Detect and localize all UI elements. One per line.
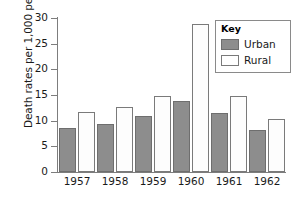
legend-label-urban: Urban	[244, 39, 276, 50]
y-axis-tick	[51, 44, 58, 45]
bar-urban-1957[interactable]	[59, 128, 76, 172]
y-axis-tick-label: 15	[0, 89, 48, 100]
legend-title: Key	[221, 24, 285, 35]
legend-swatch-rural	[221, 55, 239, 66]
y-axis-tick	[51, 18, 58, 19]
bar-rural-1958[interactable]	[116, 107, 133, 172]
x-axis-tick-label: 1961	[210, 176, 248, 187]
bar-rural-1957[interactable]	[78, 112, 95, 172]
x-axis-tick-label: 1960	[172, 176, 210, 187]
bar-rural-1959[interactable]	[154, 96, 171, 172]
bar-rural-1961[interactable]	[230, 96, 247, 172]
y-axis-tick	[51, 121, 58, 122]
y-axis-tick-label: 10	[0, 115, 48, 126]
y-axis-tick	[51, 95, 58, 96]
y-axis-tick-label: 20	[0, 63, 48, 74]
bar-urban-1959[interactable]	[135, 116, 152, 172]
y-axis-tick	[51, 146, 58, 147]
legend: Key Urban Rural	[215, 20, 291, 73]
x-axis-tick-label: 1962	[248, 176, 286, 187]
legend-item-urban[interactable]: Urban	[221, 37, 285, 52]
bar-urban-1958[interactable]	[97, 124, 114, 172]
legend-label-rural: Rural	[244, 55, 271, 66]
legend-swatch-urban	[221, 39, 239, 50]
bar-rural-1962[interactable]	[268, 119, 285, 172]
y-axis-tick-label: 25	[0, 38, 48, 49]
y-axis-tick-label: 0	[0, 166, 48, 177]
y-axis-tick	[51, 69, 58, 70]
bar-urban-1960[interactable]	[173, 101, 190, 172]
bar-chart: Death rates per 1,000 people 05101520253…	[0, 0, 304, 208]
x-axis-tick-label: 1959	[134, 176, 172, 187]
bar-urban-1962[interactable]	[249, 130, 266, 172]
x-axis-tick-label: 1957	[58, 176, 96, 187]
bar-rural-1960[interactable]	[192, 24, 209, 172]
y-axis-tick	[51, 172, 58, 173]
bar-urban-1961[interactable]	[211, 113, 228, 172]
y-axis-tick-label: 30	[0, 12, 48, 23]
legend-item-rural[interactable]: Rural	[221, 53, 285, 68]
x-axis-tick-label: 1958	[96, 176, 134, 187]
x-axis-line	[57, 172, 286, 173]
y-axis-tick-label: 5	[0, 140, 48, 151]
